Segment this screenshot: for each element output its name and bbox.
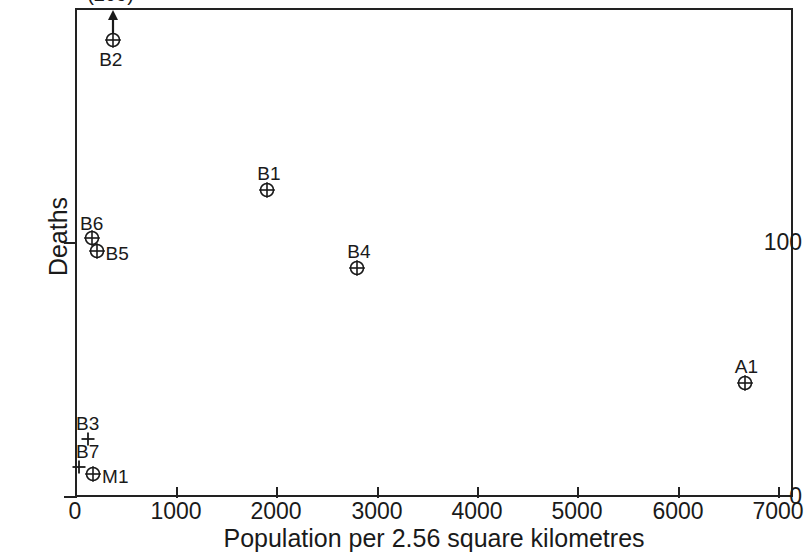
data-point-b7-label: B7 (76, 442, 99, 461)
x-tick-label-4000: 4000 (432, 500, 522, 523)
data-point-b4-label: B4 (347, 242, 370, 261)
circle-plus-icon (88, 242, 106, 260)
circle-plus-icon (348, 259, 366, 277)
x-tick-label-0: 0 (45, 500, 105, 523)
x-tick-label-7000: 7000 (733, 500, 808, 523)
data-point-a1-label: A1 (735, 357, 758, 376)
x-axis-title: Population per 2.56 square kilometres (75, 524, 793, 553)
x-tick-label-6000: 6000 (633, 500, 723, 523)
data-point-b2-label: B2 (99, 50, 122, 69)
data-point-b5-label: B5 (106, 244, 129, 263)
x-tick-label-2000: 2000 (231, 500, 321, 523)
data-point-layer: (209) B2 B1 B6 (75, 8, 793, 497)
data-point-b3-label: B3 (76, 414, 99, 433)
data-point-m1-label: M1 (102, 467, 128, 486)
data-point-b6-label: B6 (80, 214, 103, 233)
x-tick-label-3000: 3000 (332, 500, 422, 523)
x-tick-label-1000: 1000 (131, 500, 221, 523)
circle-plus-icon (84, 465, 102, 483)
x-tick-label-5000: 5000 (532, 500, 622, 523)
y-tick-mark-100 (64, 242, 75, 244)
data-point-b2-annotation: (209) (87, 0, 134, 4)
up-arrow-icon (105, 10, 121, 34)
data-point-b1-label: B1 (257, 164, 280, 183)
y-axis-title: Deaths (44, 167, 73, 307)
